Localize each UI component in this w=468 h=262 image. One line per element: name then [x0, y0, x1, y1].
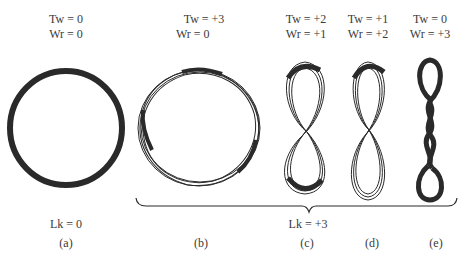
relaxed-circle-a — [10, 71, 122, 185]
linking-number-a: Lk = 0 — [36, 217, 96, 232]
group-brace — [136, 198, 457, 212]
linking-number-group: Lk = +3 — [278, 217, 338, 232]
caption-a: (a) — [51, 236, 81, 251]
caption-e: (e) — [421, 236, 451, 251]
figure-eight-d — [351, 62, 384, 200]
caption-d: (d) — [357, 236, 387, 251]
twisted-circle-b — [129, 59, 270, 197]
caption-c: (c) — [292, 236, 322, 251]
supercoil-e — [418, 60, 441, 200]
figure-eight-c — [284, 62, 324, 194]
caption-b: (b) — [186, 236, 216, 251]
